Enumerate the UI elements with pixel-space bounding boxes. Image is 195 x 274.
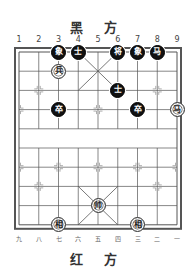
- position-marker: [139, 169, 142, 172]
- position-marker: [100, 111, 103, 114]
- position-marker: [159, 182, 162, 185]
- position-marker: [54, 169, 57, 172]
- position-marker: [34, 86, 37, 89]
- black-piece[interactable]: 士: [71, 45, 86, 60]
- column-label: 七: [52, 234, 66, 243]
- column-label: 四: [111, 234, 125, 243]
- position-marker: [139, 163, 142, 166]
- position-marker: [34, 188, 37, 191]
- red-piece[interactable]: 马: [170, 102, 185, 117]
- position-marker: [21, 163, 24, 166]
- black-piece[interactable]: 马: [150, 45, 165, 60]
- column-label: 五: [91, 234, 105, 243]
- position-marker: [60, 169, 63, 172]
- position-marker: [40, 92, 43, 95]
- xiangqi-board: [0, 0, 195, 274]
- black-piece[interactable]: 卒: [51, 102, 66, 117]
- position-marker: [34, 182, 37, 185]
- position-marker: [100, 163, 103, 166]
- black-piece[interactable]: 象: [51, 45, 66, 60]
- position-marker: [94, 105, 97, 108]
- position-marker: [40, 188, 43, 191]
- position-marker: [173, 163, 176, 166]
- position-marker: [159, 86, 162, 89]
- position-marker: [159, 188, 162, 191]
- column-label: 九: [12, 234, 26, 243]
- position-marker: [153, 182, 156, 185]
- red-side-title: 红 方: [0, 249, 195, 268]
- position-marker: [153, 86, 156, 89]
- column-label: 六: [71, 234, 85, 243]
- position-marker: [100, 105, 103, 108]
- column-label: 三: [131, 234, 145, 243]
- position-marker: [21, 169, 24, 172]
- red-piece[interactable]: 帅: [91, 198, 106, 213]
- red-piece[interactable]: 兵: [51, 64, 66, 79]
- black-piece[interactable]: 将: [110, 45, 125, 60]
- position-marker: [21, 105, 24, 108]
- position-marker: [94, 169, 97, 172]
- column-label: 二: [150, 234, 164, 243]
- position-marker: [94, 163, 97, 166]
- position-marker: [100, 169, 103, 172]
- position-marker: [40, 182, 43, 185]
- column-label: 一: [170, 234, 184, 243]
- black-piece[interactable]: 卒: [130, 102, 145, 117]
- position-marker: [21, 111, 24, 114]
- black-piece[interactable]: 象: [130, 45, 145, 60]
- position-marker: [173, 169, 176, 172]
- column-label: 八: [32, 234, 46, 243]
- position-marker: [94, 111, 97, 114]
- position-marker: [34, 92, 37, 95]
- position-marker: [153, 188, 156, 191]
- position-marker: [54, 163, 57, 166]
- position-marker: [133, 169, 136, 172]
- position-marker: [40, 86, 43, 89]
- position-marker: [153, 92, 156, 95]
- position-marker: [159, 92, 162, 95]
- position-marker: [133, 163, 136, 166]
- position-marker: [60, 163, 63, 166]
